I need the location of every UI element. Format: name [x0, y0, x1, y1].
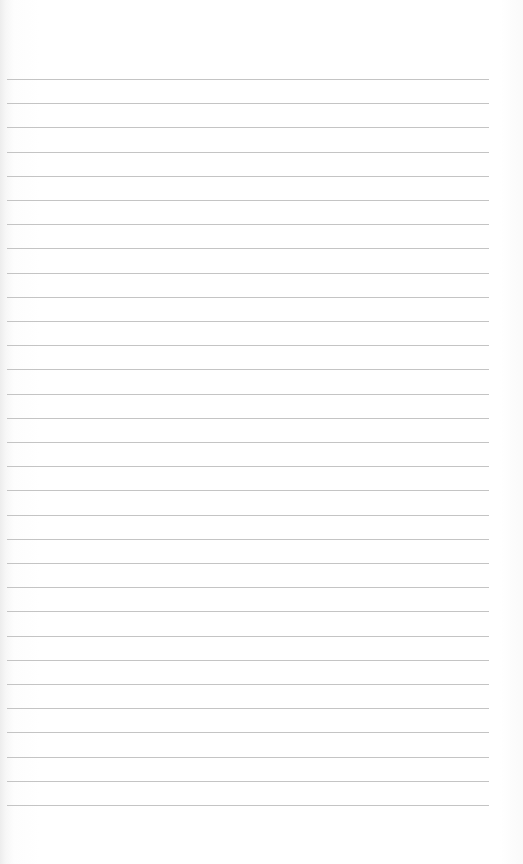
ruled-line [7, 805, 489, 806]
ruled-line [7, 418, 489, 419]
ruled-line [7, 732, 489, 733]
ruled-line [7, 79, 489, 80]
ruled-line [7, 224, 489, 225]
ruled-line [7, 611, 489, 612]
ruled-line [7, 176, 489, 177]
ruled-line [7, 127, 489, 128]
ruled-line [7, 394, 489, 395]
ruled-line [7, 103, 489, 104]
ruled-line [7, 684, 489, 685]
ruled-line [7, 321, 489, 322]
ruled-line [7, 369, 489, 370]
ruled-line [7, 587, 489, 588]
ruled-line [7, 345, 489, 346]
ruled-line [7, 708, 489, 709]
lined-paper-sheet [0, 0, 523, 864]
ruled-line [7, 563, 489, 564]
ruled-line [7, 273, 489, 274]
ruled-line [7, 515, 489, 516]
ruled-line [7, 781, 489, 782]
ruled-line [7, 248, 489, 249]
ruled-line [7, 200, 489, 201]
ruled-line [7, 297, 489, 298]
ruled-line [7, 660, 489, 661]
ruled-line [7, 757, 489, 758]
ruled-line [7, 539, 489, 540]
ruled-line [7, 466, 489, 467]
ruled-line [7, 636, 489, 637]
ruled-line [7, 442, 489, 443]
ruled-line [7, 490, 489, 491]
ruled-line [7, 152, 489, 153]
